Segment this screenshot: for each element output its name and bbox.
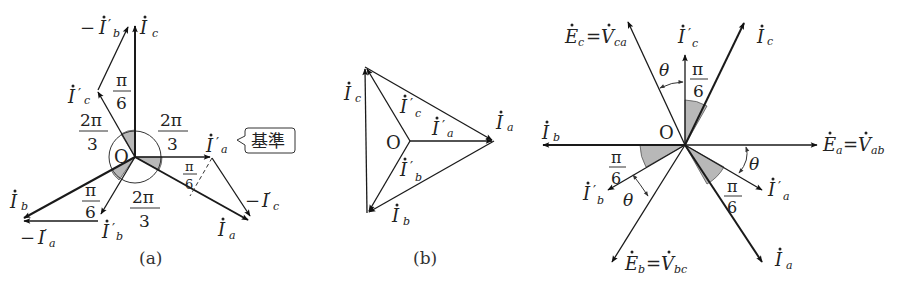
svg-text:c: c [415, 107, 421, 120]
svg-text:b: b [638, 263, 645, 276]
svg-text:3: 3 [139, 211, 150, 231]
svg-text:′: ′ [593, 183, 596, 199]
origin-label: O [114, 146, 129, 167]
svg-text:I: I [767, 179, 776, 200]
theta-arrow-a [739, 147, 747, 173]
svg-text:b: b [403, 215, 410, 228]
label-Ib-prime: I ′ b [582, 182, 604, 208]
svg-text:−: − [20, 227, 35, 248]
label-neg-Ia-prime: − I ′ a [20, 227, 56, 250]
angle-pi-6-right: π 6 [183, 159, 197, 192]
svg-text:′: ′ [108, 17, 111, 33]
svg-text:2π: 2π [80, 110, 102, 130]
svg-text:2π: 2π [160, 110, 182, 130]
svg-text:3: 3 [87, 134, 98, 154]
svg-text:I: I [139, 17, 148, 38]
svg-text:a: a [786, 259, 793, 272]
label-Ib: I b [391, 204, 410, 229]
svg-text:I: I [495, 112, 504, 133]
svg-text:π: π [116, 70, 127, 90]
label-neg-Ib-prime: − I ′ b [80, 16, 120, 41]
svg-text:b: b [597, 194, 604, 207]
angle-2pi-3-right: 2π 3 [158, 110, 188, 154]
label-neg-Ic-prime: − I ′ c [245, 190, 279, 213]
svg-text:c: c [355, 92, 361, 105]
svg-text:π: π [185, 159, 194, 174]
panel-b: O I c I ′ c I ′ a I a I ′ b [343, 67, 514, 268]
label-Ia: I a [217, 218, 236, 243]
svg-text:′: ′ [44, 227, 47, 243]
svg-text:π: π [611, 148, 622, 167]
theta-arrow-c [660, 82, 683, 88]
svg-text:I: I [756, 26, 765, 47]
theta-label-b: θ [623, 190, 633, 210]
label-Ic: I c [756, 25, 773, 49]
svg-text:I: I [98, 17, 107, 38]
caption-b: (b) [413, 248, 437, 268]
svg-text:E: E [822, 134, 836, 155]
svg-text:a: a [783, 190, 790, 203]
label-Ib-prime: I ′ b [399, 158, 422, 185]
svg-text:E: E [624, 253, 638, 274]
label-Ia: I a [495, 111, 514, 135]
svg-text:6: 6 [85, 202, 96, 222]
svg-text:6: 6 [693, 81, 704, 101]
svg-text:π: π [727, 177, 738, 196]
svg-text:ca: ca [614, 36, 627, 49]
label-Ib: I b [9, 190, 28, 214]
label-Ic: I c [343, 82, 361, 106]
panel-c: O E c = V ca I ′ c I c θ π 6 I [541, 22, 885, 276]
svg-text:a: a [229, 229, 236, 242]
vector-Ec [628, 22, 685, 145]
angle-pi-6-right: π 6 [724, 177, 742, 217]
svg-text:′: ′ [778, 179, 781, 195]
label-Ic-prime: I ′ c [67, 85, 90, 108]
svg-text:I: I [399, 159, 408, 180]
svg-text:6: 6 [727, 198, 737, 217]
svg-text:I: I [431, 118, 440, 139]
label-Ia-prime: I ′ a [205, 134, 228, 157]
label-Ec-eq-Vca: E c = V ca [564, 24, 627, 50]
svg-text:6: 6 [185, 177, 193, 192]
svg-text:−: − [245, 190, 260, 211]
svg-text:bc: bc [674, 263, 687, 276]
origin-label: O [659, 122, 674, 143]
svg-text:′: ′ [410, 96, 413, 112]
svg-text:′: ′ [78, 86, 81, 102]
svg-text:c: c [767, 35, 773, 48]
origin-label: O [386, 132, 401, 153]
angle-2pi-3-left: 2π 3 [79, 110, 108, 154]
svg-text:−: − [80, 17, 95, 38]
svg-text:=: = [586, 26, 601, 47]
theta-label-c: θ [659, 60, 669, 80]
svg-text:c: c [152, 27, 158, 40]
label-Ea-eq-Vab: E a = V ab [822, 132, 885, 158]
label-Ia: I a [774, 248, 793, 273]
svg-text:′: ′ [688, 26, 691, 42]
svg-text:b: b [553, 131, 560, 144]
svg-text:a: a [221, 143, 228, 156]
angle-pi-6-left: π 6 [609, 148, 626, 188]
svg-text:E: E [564, 26, 578, 47]
theta-arrow-b [633, 175, 648, 196]
svg-text:c: c [273, 200, 279, 213]
svg-text:a: a [836, 144, 843, 157]
svg-text:b: b [116, 230, 123, 243]
label-Ia-prime: I ′ a [767, 178, 790, 204]
svg-text:c: c [692, 37, 698, 50]
label-Ic-prime: I ′ c [399, 95, 421, 121]
svg-text:a: a [447, 127, 454, 140]
svg-text:c: c [84, 94, 90, 107]
vector-Ia [365, 67, 492, 140]
svg-text:I: I [774, 249, 783, 270]
theta-label-a: θ [749, 154, 759, 174]
svg-text:π: π [85, 180, 96, 200]
svg-text:I: I [399, 96, 408, 117]
angle-pi-6-top: π 6 [113, 70, 131, 113]
svg-text:ab: ab [871, 144, 885, 157]
caption-a: (a) [139, 248, 162, 268]
panel-a: O I c − I ′ b I ′ c π 6 2π [9, 16, 295, 269]
label-Ib: I b [541, 121, 560, 145]
svg-text:b: b [21, 200, 28, 213]
reference-callout: 基準 [237, 128, 295, 153]
